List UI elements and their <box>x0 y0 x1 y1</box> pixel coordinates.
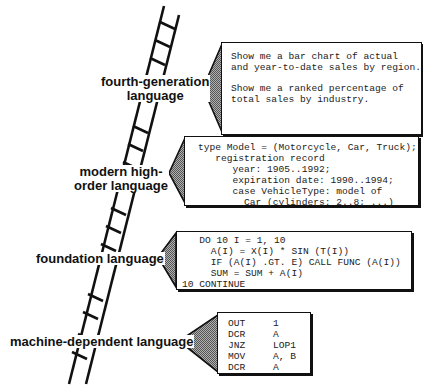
label-modern-high-order: modern high- order language <box>73 165 169 192</box>
asm-opcode: OUT <box>228 318 273 329</box>
example-box-modern-high-order: type Model = (Motorcycle, Car, Truck); r… <box>184 136 419 206</box>
asm-row: OUT 1 <box>228 318 310 329</box>
asm-operand: A, B <box>273 351 296 362</box>
asm-row: MOV A, B <box>228 351 310 362</box>
label-line: modern high- <box>74 165 168 178</box>
language-ladder-diagram: fourth-generation language modern high- … <box>0 0 423 385</box>
asm-row: JNZ LOP1 <box>228 340 310 351</box>
asm-opcode: JNZ <box>228 340 273 351</box>
label-line: fourth-generation <box>101 75 209 88</box>
label-line: machine-dependent language <box>10 334 193 349</box>
label-foundation: foundation language <box>35 252 165 265</box>
asm-opcode: MOV <box>228 351 273 362</box>
label-line: language <box>101 89 209 102</box>
example-code: type Model = (Motorcycle, Car, Truck); r… <box>198 142 418 208</box>
example-code: DO 10 I = 1, 10 A(I) = X(I) * SIN (T(I))… <box>182 235 411 290</box>
example-box-machine-dependent: OUT 1 DCR A JNZ LOP1 MOV A, B DCR A <box>217 312 311 374</box>
asm-operand: 1 <box>273 318 279 329</box>
asm-row: DCR A <box>228 329 310 340</box>
asm-operand: LOP1 <box>273 340 296 351</box>
asm-opcode: DCR <box>228 329 273 340</box>
example-paragraph: Show me a bar chart of actual and year-t… <box>231 51 421 73</box>
label-line: order language <box>74 179 168 192</box>
asm-operand: A <box>273 362 279 373</box>
pointer-modern <box>169 138 185 203</box>
asm-opcode: DCR <box>228 362 273 373</box>
label-machine-dependent: machine-dependent language <box>9 335 194 348</box>
example-paragraph: Show me a ranked percentage of total sal… <box>231 83 421 105</box>
label-line: foundation language <box>36 251 164 266</box>
label-fourth-generation: fourth-generation language <box>100 75 210 102</box>
example-box-fourth-generation: Show me a bar chart of actual and year-t… <box>221 42 422 135</box>
asm-row: DCR A <box>228 362 310 373</box>
example-box-foundation: DO 10 I = 1, 10 A(I) = X(I) * SIN (T(I))… <box>176 231 412 290</box>
asm-operand: A <box>273 329 279 340</box>
